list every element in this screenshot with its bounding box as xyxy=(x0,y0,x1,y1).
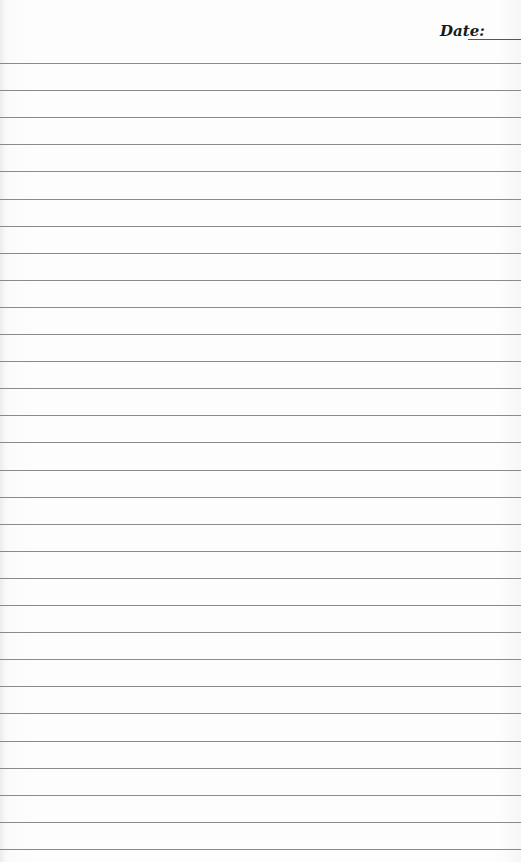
ruled-line xyxy=(0,497,521,498)
ruled-line xyxy=(0,361,521,362)
ruled-line xyxy=(0,171,521,172)
ruled-line xyxy=(0,849,521,850)
ruled-line xyxy=(0,470,521,471)
date-label: Date: xyxy=(440,22,485,40)
ruled-line xyxy=(0,632,521,633)
ruled-line xyxy=(0,199,521,200)
ruled-line xyxy=(0,713,521,714)
ruled-line xyxy=(0,307,521,308)
ruled-line xyxy=(0,686,521,687)
ruled-line xyxy=(0,63,521,64)
ruled-line xyxy=(0,117,521,118)
ruled-line xyxy=(0,415,521,416)
date-blank-line[interactable] xyxy=(468,39,521,40)
ruled-line xyxy=(0,442,521,443)
ruled-line xyxy=(0,822,521,823)
ruled-line xyxy=(0,280,521,281)
ruled-line xyxy=(0,578,521,579)
ruled-line xyxy=(0,226,521,227)
ruled-line xyxy=(0,659,521,660)
ruled-line xyxy=(0,768,521,769)
ruled-line xyxy=(0,388,521,389)
ruled-line xyxy=(0,90,521,91)
ruled-line xyxy=(0,253,521,254)
ruled-line xyxy=(0,605,521,606)
lined-paper: Date: xyxy=(0,0,521,862)
ruled-line xyxy=(0,741,521,742)
ruled-line xyxy=(0,795,521,796)
ruled-line xyxy=(0,334,521,335)
ruled-line xyxy=(0,524,521,525)
ruled-line xyxy=(0,144,521,145)
ruled-line xyxy=(0,551,521,552)
